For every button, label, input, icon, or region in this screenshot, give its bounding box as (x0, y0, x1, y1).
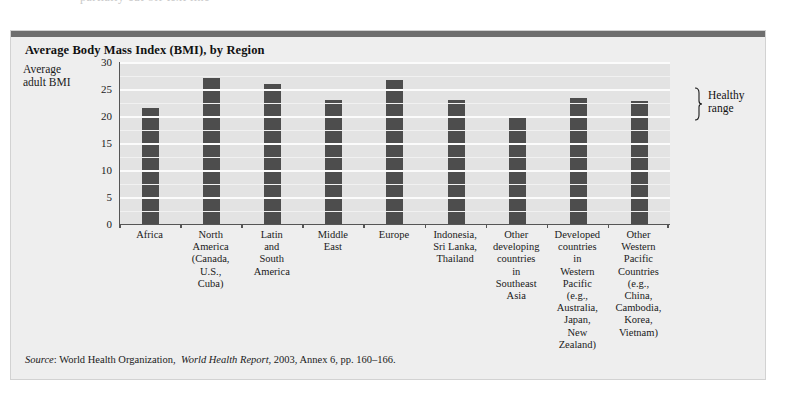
x-axis-category-label-line: Cuba) (181, 278, 240, 290)
x-axis-category-label-line: U.S., (181, 266, 240, 278)
y-axis-tick-label: 25 (101, 83, 112, 95)
x-axis-category-labels: AfricaNorthAmerica(Canada,U.S.,Cuba)Lati… (119, 229, 669, 351)
y-axis-tick-label: 10 (101, 164, 112, 176)
gridline-minor (120, 184, 670, 185)
x-axis-category-label-line: Asia (487, 290, 546, 302)
x-axis-category-label-line: Western (548, 266, 607, 278)
gridline-major (120, 62, 670, 64)
x-axis-category-label-line: Southeast (487, 278, 546, 290)
gridline-minor (120, 76, 670, 77)
gridline-major (120, 116, 670, 118)
x-axis-category-label-line: Thailand (426, 253, 485, 265)
x-axis-category-label-line: America (242, 266, 301, 278)
bar (325, 100, 342, 224)
y-axis-title-line-2: adult BMI (23, 76, 95, 89)
gridline-major (120, 197, 670, 199)
x-axis-category-label-line: Indonesia, (426, 229, 485, 241)
bracket-icon (694, 87, 703, 121)
x-axis-category-label: MiddleEast (302, 229, 363, 351)
x-axis-tick (547, 224, 608, 228)
x-axis-category-label-line: Developed (548, 229, 607, 241)
x-axis-category-label-line: and (242, 241, 301, 253)
x-axis-category-label: Indonesia,Sri Lanka,Thailand (425, 229, 486, 351)
x-axis-category-label-line: Latin (242, 229, 301, 241)
x-axis-category-label-line: Australia, (548, 302, 607, 314)
y-axis-title-line-1: Average (23, 63, 95, 76)
x-axis-tick (486, 224, 547, 228)
y-axis-tick-label: 20 (101, 110, 112, 122)
clipped-text: partially cut off text line (80, 0, 210, 4)
x-axis-ticks (119, 224, 669, 228)
card-top-rule (11, 31, 765, 37)
x-axis-category-label-line: (e.g., (548, 290, 607, 302)
gridline-major (120, 89, 670, 91)
y-axis-title: Average adult BMI (23, 63, 95, 89)
gridline-minor (120, 211, 670, 212)
source-publication: World Health Report (181, 354, 269, 365)
bar (203, 78, 220, 224)
x-axis-category-label: Europe (363, 229, 424, 351)
x-axis-category-label-line: Japan, (548, 314, 607, 326)
x-axis-tick (302, 224, 363, 228)
bar (631, 101, 648, 224)
x-axis-category-label-line: Cambodia, (609, 302, 668, 314)
gridline-minor (120, 157, 670, 158)
x-axis-category-label-line: New (548, 327, 607, 339)
x-axis-category-label-line: developing (487, 241, 546, 253)
source-organization: World Health Organization, (59, 354, 175, 365)
bar (264, 84, 281, 224)
y-axis-tick-label: 5 (107, 191, 113, 203)
x-axis-category-label-line: Vietnam) (609, 327, 668, 339)
source-note: Source: World Health Organization, World… (25, 354, 396, 365)
x-axis-category-label-line: in (548, 253, 607, 265)
x-axis-category-label-line: Africa (120, 229, 179, 241)
x-axis-category-label: DevelopedcountriesinWesternPacific(e.g.,… (547, 229, 608, 351)
bar (386, 80, 403, 224)
x-axis-category-label-line: Other (609, 229, 668, 241)
x-axis-category-label-line: Middle (303, 229, 362, 241)
gridline-major (120, 143, 670, 145)
bar (142, 108, 159, 224)
clipped-text-row: partially cut off text line (0, 0, 787, 10)
x-axis-category-label-line: Zealand) (548, 339, 607, 351)
x-axis-category-label-line: countries (487, 253, 546, 265)
healthy-range-label-line-2: range (708, 102, 744, 115)
x-axis-tick (119, 224, 180, 228)
x-axis-category-label: OtherWesternPacificCountries(e.g.,China,… (608, 229, 669, 351)
x-axis-category-label-line: Pacific (609, 253, 668, 265)
gridline-minor (120, 103, 670, 104)
x-axis-category-label-line: Sri Lanka, (426, 241, 485, 253)
x-axis-category-label-line: Pacific (548, 278, 607, 290)
x-axis-tick (363, 224, 424, 228)
x-axis-tick (241, 224, 302, 228)
x-axis-category-label-line: (Canada, (181, 253, 240, 265)
x-axis-category-label-line: countries (548, 241, 607, 253)
x-axis-category-label-line: Countries (609, 266, 668, 278)
x-axis-category-label-line: Korea, (609, 314, 668, 326)
x-axis-category-label-line: (e.g., (609, 278, 668, 290)
gridline-major (120, 170, 670, 172)
figure-card: Average Body Mass Index (BMI), by Region… (10, 30, 766, 380)
plot-area (119, 62, 670, 225)
x-axis-category-label: NorthAmerica(Canada,U.S.,Cuba) (180, 229, 241, 351)
x-axis-tick (425, 224, 486, 228)
x-axis-category-label-line: South (242, 253, 301, 265)
x-axis-tick (180, 224, 241, 228)
x-axis-category-label: Africa (119, 229, 180, 351)
healthy-range-label: Healthy range (708, 89, 744, 115)
x-axis-tick (608, 224, 669, 228)
x-axis-category-label-line: China, (609, 290, 668, 302)
x-axis-category-label-line: Western (609, 241, 668, 253)
y-axis-tick-label: 0 (107, 218, 113, 230)
gridline-minor (120, 130, 670, 131)
x-axis-category-label-line: Europe (364, 229, 423, 241)
y-axis-tick-label: 15 (101, 137, 112, 149)
x-axis-category-label: LatinandSouthAmerica (241, 229, 302, 351)
source-label: Source (25, 354, 54, 365)
x-axis-category-label-line: North (181, 229, 240, 241)
figure-title: Average Body Mass Index (BMI), by Region (25, 43, 265, 58)
source-rest: , 2003, Annex 6, pp. 160–166. (269, 354, 396, 365)
x-axis-category-label-line: America (181, 241, 240, 253)
y-axis-tick-labels: 051015202530 (89, 62, 115, 224)
bar (448, 100, 465, 224)
